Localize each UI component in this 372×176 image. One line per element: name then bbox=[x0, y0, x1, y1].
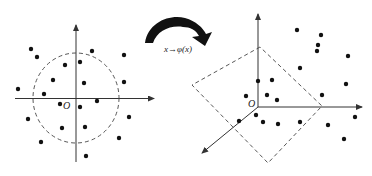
data-point bbox=[78, 105, 82, 109]
data-point bbox=[275, 98, 279, 102]
data-point bbox=[295, 28, 299, 32]
left-axes bbox=[15, 25, 154, 162]
data-point bbox=[95, 99, 99, 103]
data-point bbox=[51, 78, 55, 82]
data-point bbox=[122, 53, 126, 57]
right-origin-label: O bbox=[248, 98, 255, 109]
data-point bbox=[326, 123, 330, 127]
mapping-label: x→φ(x) bbox=[164, 44, 192, 54]
data-point bbox=[353, 115, 357, 119]
kernel-mapping-diagram bbox=[0, 0, 372, 176]
left-origin-label: O bbox=[63, 100, 70, 111]
right-axes bbox=[202, 14, 362, 153]
data-point bbox=[84, 154, 88, 158]
data-point bbox=[29, 47, 33, 51]
right-data-points bbox=[237, 28, 357, 141]
data-point bbox=[83, 125, 87, 129]
data-point bbox=[346, 54, 350, 58]
data-point bbox=[58, 102, 62, 106]
data-point bbox=[342, 137, 346, 141]
data-point bbox=[78, 60, 82, 64]
data-point bbox=[320, 93, 324, 97]
data-point bbox=[122, 80, 126, 84]
data-point bbox=[261, 120, 265, 124]
data-point bbox=[63, 63, 67, 67]
data-point bbox=[315, 49, 319, 53]
data-point bbox=[82, 81, 86, 85]
data-point bbox=[42, 92, 46, 96]
data-point bbox=[256, 79, 260, 83]
data-point bbox=[35, 55, 39, 59]
data-point bbox=[26, 117, 30, 121]
data-point bbox=[39, 140, 43, 144]
data-point bbox=[237, 119, 241, 123]
data-point bbox=[127, 115, 131, 119]
data-point bbox=[276, 122, 280, 126]
data-point bbox=[90, 49, 94, 53]
data-point bbox=[265, 93, 269, 97]
data-point bbox=[270, 78, 274, 82]
data-point bbox=[319, 33, 323, 37]
data-point bbox=[316, 43, 320, 47]
data-point bbox=[60, 126, 64, 130]
data-point bbox=[298, 66, 302, 70]
data-point bbox=[344, 82, 348, 86]
data-point bbox=[298, 120, 302, 124]
data-point bbox=[254, 113, 258, 117]
data-point bbox=[16, 87, 20, 91]
curved-arrow-icon bbox=[145, 17, 212, 46]
data-point bbox=[117, 136, 121, 140]
